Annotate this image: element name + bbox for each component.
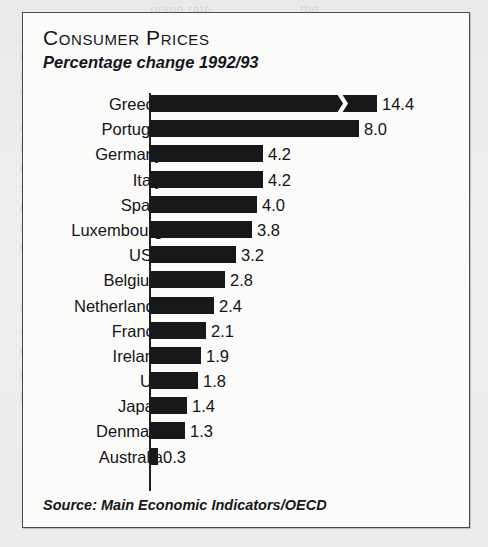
- chart-panel: Consumer Prices Percentage change 1992/9…: [22, 12, 470, 528]
- chart-title: Consumer Prices: [43, 26, 210, 50]
- bar: [150, 347, 201, 364]
- bar: [150, 271, 225, 288]
- bar-value-label: 1.3: [190, 422, 213, 441]
- bar: [150, 422, 185, 439]
- bar: [150, 120, 359, 137]
- bar-row: Italy4.2: [23, 169, 469, 194]
- bar-value-label: 14.4: [382, 95, 414, 114]
- bar-value-label: 4.2: [268, 171, 291, 190]
- bar: [150, 171, 263, 188]
- bar-row: Denmark1.3: [23, 420, 469, 445]
- bar: [150, 221, 252, 238]
- bar: [150, 397, 187, 414]
- bar: [150, 95, 377, 112]
- bar-value-label: 3.2: [241, 246, 264, 265]
- chart-subtitle: Percentage change 1992/93: [43, 53, 259, 72]
- bar-value-label: 1.4: [192, 397, 215, 416]
- bar: [150, 145, 263, 162]
- bar: [150, 246, 236, 263]
- bar-row: Australia0.3: [23, 446, 469, 471]
- bar-row: Netherlands2.4: [23, 295, 469, 320]
- bar-row: Luxembourg3.8: [23, 219, 469, 244]
- bar-row: Spain4.0: [23, 194, 469, 219]
- bar-value-label: 1.9: [206, 347, 229, 366]
- chart-source-note: Source: Main Economic Indicators/OECD: [43, 497, 327, 513]
- bar-value-label: 3.8: [257, 221, 280, 240]
- bar-value-label: 4.0: [262, 196, 285, 215]
- bar-row: France2.1: [23, 320, 469, 345]
- bar: [150, 372, 198, 389]
- bar-rows: Greece14.4Portugal8.0Germany4.2Italy4.2S…: [23, 93, 469, 471]
- bar-value-label: 8.0: [364, 120, 387, 139]
- bar-row: Portugal8.0: [23, 118, 469, 143]
- bar-chart-plot-area: Greece14.4Portugal8.0Germany4.2Italy4.2S…: [23, 93, 469, 471]
- bar-value-label: 2.8: [230, 271, 253, 290]
- bar-row: Japan1.4: [23, 395, 469, 420]
- bar-value-label: 0.3: [163, 448, 186, 467]
- bar-row: Germany4.2: [23, 143, 469, 168]
- bar: [150, 448, 158, 465]
- bar: [150, 322, 206, 339]
- bar-value-label: 4.2: [268, 145, 291, 164]
- bar-row: Ireland1.9: [23, 345, 469, 370]
- bar-row: Belgium2.8: [23, 269, 469, 294]
- bar: [150, 297, 214, 314]
- bar: [150, 196, 257, 213]
- bar-value-label: 1.8: [203, 372, 226, 391]
- bar-row: UK1.8: [23, 370, 469, 395]
- bar-value-label: 2.4: [219, 297, 242, 316]
- bar-row: Greece14.4: [23, 93, 469, 118]
- bar-value-label: 2.1: [211, 322, 234, 341]
- bar-row: USA3.2: [23, 244, 469, 269]
